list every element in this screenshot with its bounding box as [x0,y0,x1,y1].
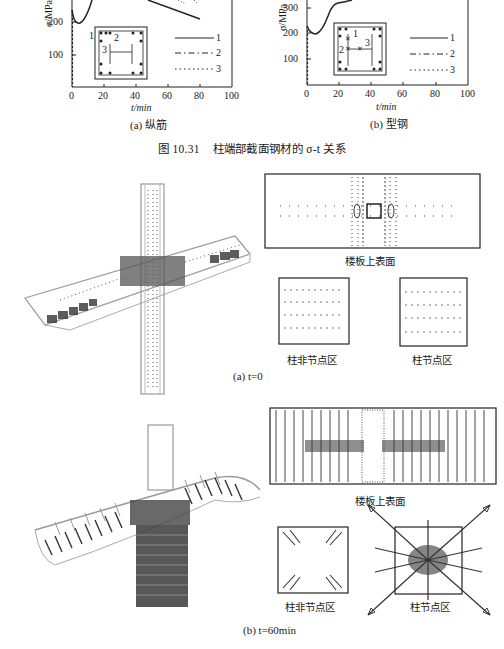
model-3d-t60 [0,0,504,649]
slab-top-label-t60: 楼板上表面 [355,493,405,508]
subfigure-caption-t60: (b) t=60min [243,624,296,636]
col-nonjoint-label-t60: 柱非节点区 [285,599,335,614]
col-joint-label-t60: 柱节点区 [410,599,450,614]
